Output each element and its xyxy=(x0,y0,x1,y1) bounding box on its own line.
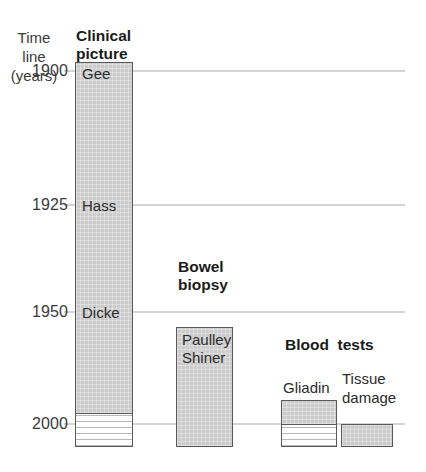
bar-gliadin-grid-foot xyxy=(281,424,337,447)
bar-label-tissue: Tissue xyxy=(342,369,386,388)
bar-gliadin xyxy=(281,400,337,425)
bar-clinical-picture xyxy=(75,62,133,414)
group-title-clinical-line-1: Clinical xyxy=(76,27,131,45)
axis-tick-1925: 1925 xyxy=(0,197,68,213)
axis-tick-1950: 1950 xyxy=(0,304,68,320)
group-title-bowel-line-1: Bowel xyxy=(178,258,224,276)
axis-caption-line-1: Time xyxy=(0,28,68,47)
group-title-blood-tests: Blood tests xyxy=(285,336,374,354)
bar-bowel-biopsy xyxy=(176,327,233,447)
group-title-clinical-line-2: picture xyxy=(76,45,128,63)
axis-tick-2000: 2000 xyxy=(0,416,68,432)
bar-tissue-damage xyxy=(341,424,393,447)
timeline-diagram: Time line (years) 1900 1925 1950 2000 Cl… xyxy=(0,0,426,472)
bar-label-damage: damage xyxy=(342,388,396,407)
axis-tick-1900: 1900 xyxy=(0,63,68,79)
bar-label-gliadin: Gliadin xyxy=(283,378,330,397)
bar-clinical-picture-grid-foot xyxy=(75,413,133,447)
group-title-bowel-line-2: biopsy xyxy=(178,276,228,294)
